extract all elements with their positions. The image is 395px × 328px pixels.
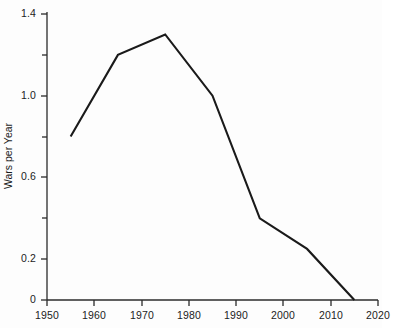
x-tick-label-1980: 1980 <box>169 309 209 321</box>
x-tick-label-1990: 1990 <box>216 309 256 321</box>
wars-per-year-data-line <box>71 34 355 300</box>
y-axis-minor-ticks <box>42 55 47 218</box>
y-tick-label-0-6: 0.6 <box>6 170 36 182</box>
y-tick-label-0-2: 0.2 <box>6 252 36 264</box>
x-tick-label-1970: 1970 <box>122 309 162 321</box>
x-tick-label-2000: 2000 <box>263 309 303 321</box>
x-tick-label-2020: 2020 <box>358 309 395 321</box>
y-tick-label-1-4: 1.4 <box>6 7 36 19</box>
y-tick-label-0: 0 <box>6 293 36 305</box>
x-axis-major-ticks <box>47 300 378 306</box>
x-tick-label-2010: 2010 <box>311 309 351 321</box>
x-tick-label-1960: 1960 <box>74 309 114 321</box>
y-axis-major-ticks <box>41 14 47 300</box>
x-tick-label-1950: 1950 <box>27 309 67 321</box>
y-tick-label-1-0: 1.0 <box>6 89 36 101</box>
